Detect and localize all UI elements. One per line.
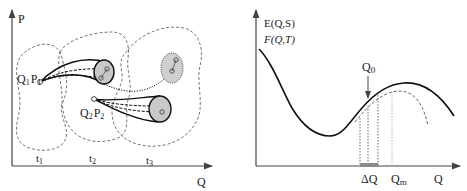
- start-point-2: [92, 97, 97, 102]
- label-delta-q: ΔQ: [361, 172, 378, 186]
- energy-curve: [259, 49, 454, 136]
- svg-text:t2: t2: [89, 152, 96, 166]
- delta-q-bar: [360, 163, 378, 167]
- svg-text:Q2P2: Q2P2: [80, 106, 104, 121]
- label-e-qs: E(Q,S): [264, 17, 295, 30]
- svg-text:t1: t1: [36, 152, 43, 166]
- svg-text:t3: t3: [146, 154, 153, 168]
- target-ellipse-dotted: [161, 53, 183, 83]
- label-t1: t1: [36, 152, 43, 166]
- right-panel: E(Q,S) F(Q,T) Q0 ΔQ Qm Q: [256, 10, 460, 187]
- label-t2: t2: [89, 152, 96, 166]
- label-q2p2: Q2P2: [80, 106, 104, 121]
- region-t1: [16, 44, 66, 150]
- label-f-qt: F(Q,T): [263, 33, 295, 46]
- p-axis-label: P: [18, 12, 25, 26]
- svg-text:Qm: Qm: [391, 172, 407, 187]
- diagram-canvas: P Q t1 t2 t3: [0, 0, 467, 191]
- label-qm: Qm: [391, 172, 407, 187]
- svg-text:Q0: Q0: [362, 60, 376, 75]
- free-energy-curve: [355, 91, 428, 126]
- q-axis-right-label: Q: [434, 172, 443, 186]
- q-axis-label: Q: [197, 175, 206, 189]
- target-ellipse-2: [149, 96, 171, 122]
- svg-text:Q1P1: Q1P1: [17, 72, 41, 87]
- target-ellipse-1: [94, 60, 114, 84]
- label-q1p1: Q1P1: [17, 72, 41, 87]
- left-panel: P Q t1 t2 t3: [12, 10, 212, 189]
- region-t2: [59, 32, 131, 141]
- label-t3: t3: [146, 154, 153, 168]
- region-t3: [112, 27, 201, 146]
- label-q0: Q0: [362, 60, 376, 75]
